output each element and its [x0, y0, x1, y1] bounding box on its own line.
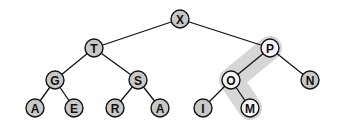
tree-node-t: T [85, 39, 103, 57]
node-label: A [31, 102, 40, 116]
node-label: R [111, 102, 120, 116]
tree-diagram: XTPGSONAERAIM [0, 0, 340, 128]
tree-node-o: O [222, 71, 240, 89]
node-label: I [201, 102, 204, 116]
node-label: G [50, 74, 59, 88]
node-label: S [134, 74, 142, 88]
tree-node-a: A [151, 99, 169, 117]
tree-node-p: P [261, 39, 279, 57]
node-label: T [90, 42, 98, 56]
tree-node-x: X [171, 10, 189, 28]
tree-node-n: N [301, 71, 319, 89]
tree-node-e: E [65, 99, 83, 117]
tree-node-r: R [106, 99, 124, 117]
node-label: E [70, 102, 78, 116]
tree-node-m: M [241, 99, 259, 117]
node-label: X [176, 13, 184, 27]
tree-edge-x-t [94, 19, 180, 48]
node-label: O [226, 74, 235, 88]
tree-node-i: I [194, 99, 212, 117]
tree-node-a: A [26, 99, 44, 117]
tree-nodes: XTPGSONAERAIM [26, 10, 319, 117]
node-label: A [156, 102, 165, 116]
node-label: P [266, 42, 274, 56]
node-label: M [245, 102, 255, 116]
tree-node-g: G [46, 71, 64, 89]
node-label: N [306, 74, 315, 88]
tree-edge-x-p [180, 19, 270, 48]
tree-node-s: S [129, 71, 147, 89]
